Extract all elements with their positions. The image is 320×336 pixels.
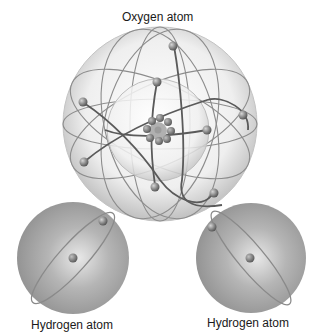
hydrogen-right-electron <box>208 223 217 232</box>
hydrogen-atom-right <box>196 203 306 313</box>
hydrogen-left-nucleus <box>69 254 78 263</box>
hydrogen-atom-left <box>17 202 129 314</box>
oxygen-atom <box>55 16 265 232</box>
electron <box>169 42 178 51</box>
oxygen-atom-label: Oxygen atom <box>122 10 193 24</box>
hydrogen-atom-left-label: Hydrogen atom <box>31 318 113 332</box>
electron <box>151 183 160 192</box>
hydrogen-atom-right-label: Hydrogen atom <box>207 316 289 330</box>
electron <box>210 189 219 198</box>
electron <box>79 98 88 107</box>
water-molecule-diagram <box>0 0 320 336</box>
hydrogen-right-nucleus <box>246 254 255 263</box>
electron <box>203 126 212 135</box>
electron <box>153 78 162 87</box>
electron <box>239 111 248 120</box>
hydrogen-left-electron <box>99 217 108 226</box>
electron <box>80 158 89 167</box>
